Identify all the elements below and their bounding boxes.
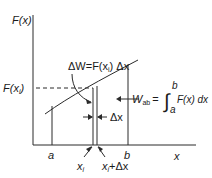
dx-arrowhead-left — [88, 114, 93, 120]
integrand: F(x) dx — [177, 94, 209, 105]
xi-arrowhead — [86, 146, 92, 152]
integral-upper: b — [172, 80, 178, 91]
wab-arrowhead — [116, 96, 121, 102]
work-integral-diagram: F(x) x F(xi) a b xi xi+Δx Δx ΔW=F(xi) Δx… — [0, 0, 212, 178]
xi-dx-arrowhead — [98, 146, 103, 152]
xi-dx-label: xi+Δx — [101, 160, 129, 173]
xi-label: xi — [76, 160, 85, 173]
a-label: a — [48, 149, 54, 161]
dx-arrowhead-right — [97, 114, 102, 120]
x-axis-label: x — [173, 150, 180, 162]
y-axis-label: F(x) — [12, 14, 32, 26]
integral-lower: a — [170, 104, 176, 115]
delta-w-label: ΔW=F(xi) Δx — [68, 60, 130, 73]
delta-w-arrowhead — [86, 99, 92, 104]
dx-label: Δx — [110, 111, 123, 123]
f-xi-label: F(xi) — [3, 82, 24, 95]
w-ab-label: Wab= — [132, 93, 159, 106]
